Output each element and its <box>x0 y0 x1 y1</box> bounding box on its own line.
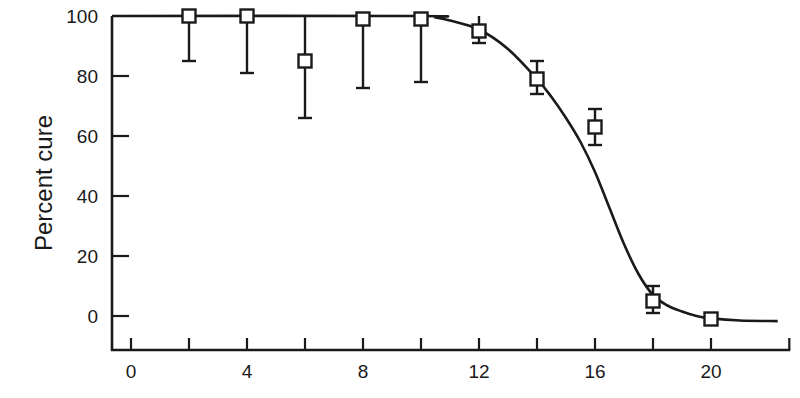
data-points <box>182 10 718 326</box>
fitted-curve-path <box>112 16 778 321</box>
data-point <box>705 313 718 326</box>
square-marker <box>473 25 486 38</box>
data-point <box>414 13 428 83</box>
y-axis-title: Percent cure <box>30 115 57 251</box>
data-point <box>472 16 486 43</box>
y-tick-label: 40 <box>77 186 98 207</box>
axes <box>111 16 790 351</box>
data-point <box>530 61 544 94</box>
square-marker <box>299 55 312 68</box>
y-tick-label: 80 <box>77 66 98 87</box>
square-marker <box>357 13 370 26</box>
square-marker <box>705 313 718 326</box>
tick-labels: 020406080100048121620 <box>66 6 721 382</box>
square-marker <box>241 10 254 23</box>
x-tick-label: 12 <box>468 361 489 382</box>
fitted-curve <box>112 16 778 321</box>
data-point <box>240 10 254 74</box>
y-tick-label: 20 <box>77 246 98 267</box>
square-marker <box>589 121 602 134</box>
data-point <box>298 16 312 118</box>
square-marker <box>647 295 660 308</box>
x-tick-label: 16 <box>584 361 605 382</box>
square-marker <box>183 10 196 23</box>
x-tick-label: 0 <box>126 361 137 382</box>
data-point <box>588 109 602 145</box>
square-marker <box>531 73 544 86</box>
x-tick-label: 8 <box>358 361 369 382</box>
y-tick-label: 100 <box>66 6 98 27</box>
data-point <box>182 10 196 62</box>
x-tick-label: 20 <box>700 361 721 382</box>
square-marker <box>415 13 428 26</box>
data-point <box>356 13 370 89</box>
chart: Percent cure 020406080100048121620 <box>0 0 800 398</box>
y-tick-label: 60 <box>77 126 98 147</box>
y-tick-label: 0 <box>87 306 98 327</box>
x-tick-label: 4 <box>242 361 253 382</box>
y-axis-label: Percent cure <box>30 115 57 251</box>
